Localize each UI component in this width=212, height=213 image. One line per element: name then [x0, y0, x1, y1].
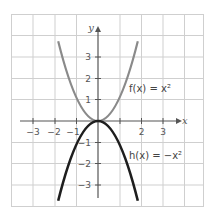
y-tick-label: −1 — [78, 138, 91, 148]
x-axis-label: x — [182, 115, 188, 126]
x-tick-label: −1 — [66, 127, 79, 137]
x-tick-label: 3 — [160, 127, 166, 137]
f-function-label: f(x) = x² — [129, 83, 171, 94]
x-tick-label: 2 — [139, 127, 145, 137]
chart: −3 −2 −1 2 3 3 2 1 −1 −2 −3 x y f(x) = x… — [0, 0, 212, 213]
y-tick-label: −3 — [78, 180, 91, 190]
y-tick-label: 3 — [85, 52, 91, 62]
y-tick-label: −2 — [78, 159, 91, 169]
x-tick-label: −2 — [47, 127, 60, 137]
y-tick-label: 2 — [85, 74, 91, 84]
y-tick-label: 1 — [85, 95, 91, 105]
y-axis-label: y — [87, 22, 94, 33]
y-axis-arrow-icon — [95, 26, 101, 32]
x-tick-label: −3 — [26, 127, 39, 137]
grid — [12, 15, 204, 207]
h-function-label: h(x) = −x² — [129, 150, 182, 161]
